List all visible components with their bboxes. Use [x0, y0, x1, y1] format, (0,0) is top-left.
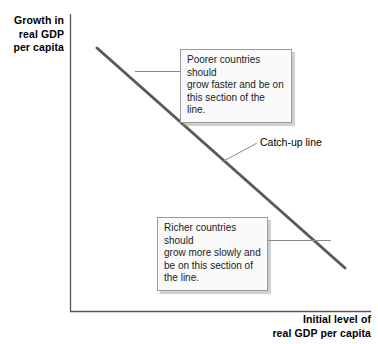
richer-countries-callout: Richer countries should grow more slowly…	[157, 217, 268, 291]
poorer-countries-callout-text: Poorer countries should grow faster and …	[187, 54, 285, 117]
catch-up-line-label: Catch-up line	[260, 136, 322, 148]
catch-up-label-leader	[222, 143, 257, 162]
poorer-countries-callout: Poorer countries should grow faster and …	[180, 49, 292, 123]
catch-up-line-chart: Growth in real GDP per capita Initial le…	[0, 0, 378, 344]
x-axis-title: Initial level of real GDP per capita	[231, 313, 371, 340]
richer-countries-callout-text: Richer countries should grow more slowly…	[164, 222, 261, 285]
y-axis-title: Growth in real GDP per capita	[0, 14, 64, 55]
